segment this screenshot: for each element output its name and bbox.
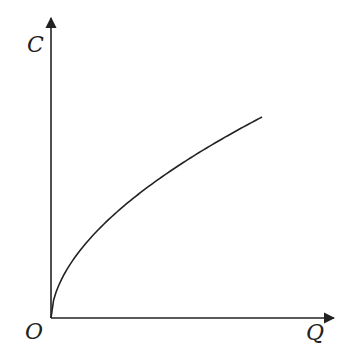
origin-label: O bbox=[25, 321, 43, 343]
cost-curve-diagram bbox=[0, 0, 355, 360]
x-axis-label: Q bbox=[306, 322, 324, 344]
cost-curve bbox=[51, 117, 262, 318]
y-axis-label: C bbox=[27, 34, 44, 56]
